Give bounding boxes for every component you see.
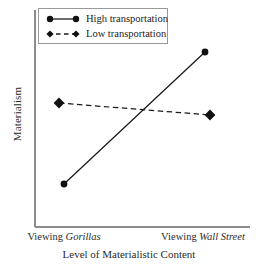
series-high-transportation-line bbox=[64, 52, 205, 184]
chart-legend: High transportation Low transportation bbox=[38, 8, 168, 44]
legend-entry-low-transportation: Low transportation bbox=[44, 26, 163, 41]
legend-label-low-transportation: Low transportation bbox=[82, 28, 166, 39]
data-point-low-wallstreet bbox=[205, 110, 216, 121]
x-axis-label: Level of Materialistic Content bbox=[0, 248, 258, 260]
legend-label-high-transportation: High transportation bbox=[82, 13, 168, 24]
x-tick-1-prefix: Viewing bbox=[161, 231, 199, 242]
data-point-high-gorillas bbox=[61, 181, 68, 188]
dashed-line-icon bbox=[44, 27, 82, 41]
x-tick-label-wall-street: Viewing Wall Street bbox=[148, 231, 258, 242]
x-tick-label-gorillas: Viewing Gorillas bbox=[9, 231, 119, 242]
x-tick-0-title: Gorillas bbox=[66, 231, 101, 242]
data-point-low-gorillas bbox=[54, 98, 65, 109]
chart-figure: Materialism Viewing Gorillas Viewing Wal… bbox=[0, 0, 258, 271]
x-tick-0-prefix: Viewing bbox=[27, 231, 65, 242]
diamond-marker-icon bbox=[46, 30, 53, 37]
data-point-high-wallstreet bbox=[202, 49, 209, 56]
series-low-transportation-line bbox=[59, 103, 210, 115]
solid-line-icon bbox=[44, 12, 82, 26]
x-tick-1-title: Wall Street bbox=[199, 231, 245, 242]
legend-entry-high-transportation: High transportation bbox=[44, 11, 163, 26]
circle-marker-icon bbox=[47, 15, 53, 21]
